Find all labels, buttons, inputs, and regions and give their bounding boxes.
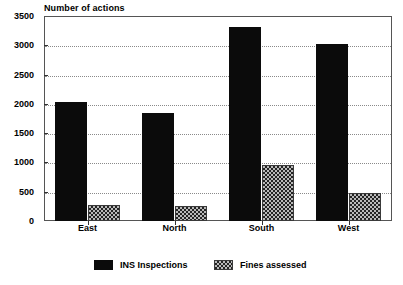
x-tick-mark bbox=[88, 221, 89, 225]
x-axis: EastNorthSouthWest bbox=[44, 224, 392, 240]
bar-north-ins-inspections bbox=[142, 113, 174, 221]
chart-legend: INS InspectionsFines assessed bbox=[44, 258, 392, 272]
x-tick-mark bbox=[262, 221, 263, 225]
legend-swatch-icon bbox=[214, 260, 233, 270]
y-tick-mark bbox=[44, 192, 48, 193]
bar-east-ins-inspections bbox=[55, 102, 87, 221]
y-tick-label: 3500 bbox=[14, 12, 34, 21]
x-tick-label-north: North bbox=[163, 224, 187, 233]
y-tick-label: 2500 bbox=[14, 70, 34, 79]
y-tick-mark bbox=[44, 75, 48, 76]
y-tick-label: 2000 bbox=[14, 99, 34, 108]
x-tick-mark bbox=[349, 221, 350, 225]
legend-swatch-icon bbox=[94, 260, 113, 270]
y-tick-label: 0 bbox=[29, 217, 34, 226]
bar-west-fines-assessed bbox=[349, 193, 381, 221]
x-tick-label-east: East bbox=[78, 224, 97, 233]
x-tick-label-south: South bbox=[249, 224, 275, 233]
x-tick-label-west: West bbox=[338, 224, 359, 233]
bar-chart: Number of actions 0500100015002000250030… bbox=[0, 0, 403, 285]
bar-west-ins-inspections bbox=[316, 44, 348, 221]
y-axis: 0500100015002000250030003500 bbox=[0, 16, 40, 221]
y-tick-label: 1000 bbox=[14, 158, 34, 167]
x-tick-mark bbox=[175, 221, 176, 225]
y-tick-mark bbox=[44, 162, 48, 163]
bar-south-fines-assessed bbox=[262, 165, 294, 221]
legend-label: INS Inspections bbox=[120, 261, 188, 270]
bar-east-fines-assessed bbox=[88, 205, 120, 221]
y-tick-mark bbox=[44, 104, 48, 105]
chart-title: Number of actions bbox=[44, 3, 125, 13]
legend-label: Fines assessed bbox=[240, 261, 307, 270]
bar-north-fines-assessed bbox=[175, 206, 207, 221]
bars-layer bbox=[44, 16, 392, 221]
y-tick-label: 500 bbox=[19, 187, 34, 196]
legend-item-ins-inspections[interactable]: INS Inspections bbox=[94, 258, 188, 272]
y-tick-label: 3000 bbox=[14, 41, 34, 50]
y-tick-label: 1500 bbox=[14, 129, 34, 138]
legend-item-fines-assessed[interactable]: Fines assessed bbox=[214, 258, 307, 272]
y-tick-mark bbox=[44, 45, 48, 46]
bar-south-ins-inspections bbox=[229, 27, 261, 221]
y-tick-mark bbox=[44, 133, 48, 134]
